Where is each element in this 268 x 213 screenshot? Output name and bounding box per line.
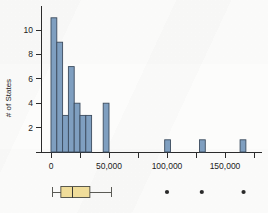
y-tick-label: 4 (28, 98, 33, 108)
histogram-bar (165, 140, 171, 152)
histogram-bar (51, 18, 57, 152)
box-iqr (61, 187, 90, 198)
histogram-bar (86, 115, 92, 152)
histogram-bar (103, 103, 109, 152)
boxplot (53, 187, 246, 198)
histogram-boxplot-plot: # of States 246810 050,000100,000150,000 (0, 0, 268, 213)
histogram-bar (57, 42, 63, 152)
x-tick-label: 0 (49, 161, 54, 171)
boxplot-outlier (241, 190, 245, 194)
histogram-bar (68, 67, 74, 152)
y-tick-label: 2 (28, 123, 33, 133)
x-axis-ticks: 050,000100,000150,000 (49, 153, 254, 172)
histogram-bars (51, 18, 246, 152)
y-axis-ticks: 246810 (24, 25, 42, 133)
histogram-bar (80, 115, 86, 152)
y-tick-label: 8 (28, 49, 33, 59)
y-tick-label: 6 (28, 74, 33, 84)
y-axis-title: # of States (4, 79, 13, 117)
histogram-bar (63, 115, 69, 152)
x-tick-label: 50,000 (96, 161, 122, 171)
y-tick-label: 10 (24, 25, 34, 35)
x-tick-label: 100,000 (152, 161, 183, 171)
histogram-bar (199, 140, 205, 152)
x-tick-label: 150,000 (210, 161, 241, 171)
boxplot-outlier (165, 190, 169, 194)
histogram-bar (74, 103, 80, 152)
boxplot-outlier (200, 190, 204, 194)
histogram-bar (240, 140, 246, 152)
chart-figure: # of States 246810 050,000100,000150,000 (0, 0, 268, 213)
